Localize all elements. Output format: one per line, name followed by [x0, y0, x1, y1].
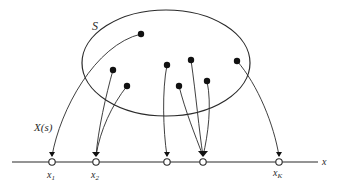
sample-point	[234, 58, 240, 64]
arrow-to-x3	[164, 65, 167, 156]
sample-points	[110, 31, 240, 89]
arrowheads	[49, 151, 282, 157]
arrow-to-x4-a	[191, 60, 203, 156]
sample-point	[138, 31, 144, 37]
sample-space-label: S	[92, 19, 98, 33]
label-x1: x1	[46, 169, 55, 182]
arrow-to-x1	[52, 34, 141, 156]
arrow-to-xK	[237, 61, 279, 156]
value-x3	[164, 159, 170, 165]
arrow-to-x4-b	[179, 86, 203, 156]
value-x2	[93, 159, 99, 165]
sample-point	[176, 83, 182, 89]
sample-point	[124, 83, 130, 89]
sample-point	[164, 62, 170, 68]
sample-point	[110, 67, 116, 73]
arrow-to-x4-c	[203, 81, 209, 156]
label-x2: x2	[90, 169, 99, 182]
sample-point	[188, 57, 194, 63]
axis-label: x	[321, 156, 327, 167]
mapping-arrows	[52, 34, 279, 156]
mapping-label: X(s)	[33, 121, 53, 134]
sample-point	[204, 78, 210, 84]
value-x1	[49, 159, 55, 165]
value-xK	[276, 159, 282, 165]
label-xK: xK	[272, 167, 282, 180]
value-x4	[200, 159, 206, 165]
random-variable-mapping-diagram: S x X(s)	[0, 0, 346, 189]
